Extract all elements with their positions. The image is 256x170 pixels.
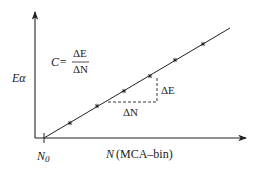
origin-label: N0	[36, 149, 50, 164]
star-marker	[201, 42, 205, 46]
star-marker	[68, 121, 72, 125]
x-axis-label: N(MCA–bin)	[105, 147, 173, 161]
star-marker	[173, 58, 177, 62]
delta-n-label: ΔN	[123, 106, 138, 118]
star-marker	[95, 104, 99, 108]
star-marker	[122, 89, 126, 93]
calibration-diagram: ΔE ΔN C= ΔE ΔN Eα N0 N(MCA–bin)	[0, 0, 256, 170]
slope-triangle	[108, 76, 157, 102]
formula-denominator: ΔN	[73, 63, 88, 75]
y-axis-label: Eα	[11, 71, 26, 85]
star-marker	[148, 74, 152, 78]
formula-lhs: C=	[51, 55, 67, 69]
delta-e-label: ΔE	[161, 84, 175, 96]
formula-numerator: ΔE	[73, 47, 87, 59]
